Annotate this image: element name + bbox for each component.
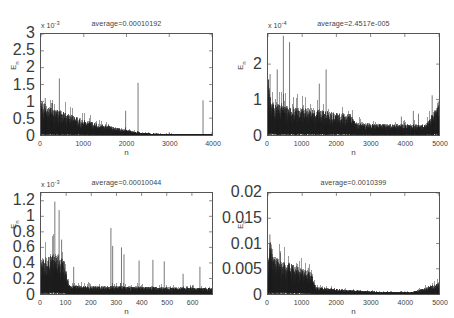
x-tick-label: 4000 — [398, 299, 414, 306]
x-tick-label: 0 — [265, 299, 269, 306]
y-tick-label: 0.02 — [231, 183, 262, 201]
x-tick-label: 300 — [110, 299, 122, 306]
y-tick-label: 0.01 — [231, 235, 262, 253]
x-tick-label: 1000 — [294, 140, 310, 147]
plot-svg-tl — [41, 34, 212, 135]
y-tick-label: 0 — [26, 286, 35, 304]
y-tick-label: 1 — [26, 93, 35, 111]
y-tick-label: 0.4 — [13, 254, 35, 272]
x-tick-label: 4000 — [398, 140, 414, 147]
x-tick-label: 0 — [38, 140, 42, 147]
y-tick-label: 2 — [26, 58, 35, 76]
x-axis-label-bl: n — [40, 307, 213, 316]
plot-area-tl — [40, 33, 213, 136]
y-tick-label: 0.005 — [222, 260, 262, 278]
x-axis-label-tr: n — [267, 148, 440, 157]
subplot-title-br: average=0.0010399 — [267, 178, 440, 187]
subplot-top-right: x 10-4 average=2.4517e-005 En 012 010002… — [227, 0, 454, 159]
y-tick-label: 0 — [26, 127, 35, 145]
matlab-figure-canvas: x 10-3 average=0.00010192 En 00.511.522.… — [0, 0, 454, 318]
plot-svg-br — [268, 193, 439, 294]
x-tick-label: 5000 — [432, 299, 448, 306]
x-tick-label: 600 — [187, 299, 199, 306]
subplot-title-tr: average=2.4517e-005 — [267, 19, 440, 28]
subplot-title-bl: average=0.00010044 — [40, 178, 213, 187]
x-axis-label-tl: n — [40, 148, 213, 157]
y-tick-label: 0.015 — [222, 209, 262, 227]
y-tick-label: 0.5 — [13, 110, 35, 128]
y-ticks-tr: 012 — [237, 33, 264, 136]
y-tick-label: 2 — [253, 55, 262, 73]
subplot-bottom-right: average=0.0010399 En 00.0050.010.0150.02… — [227, 159, 454, 318]
y-tick-label: 1 — [253, 91, 262, 109]
x-tick-label: 2000 — [328, 140, 344, 147]
x-tick-label: 5000 — [432, 140, 448, 147]
x-tick-label: 1000 — [294, 299, 310, 306]
y-ticks-bl: 00.20.40.60.811.2 — [10, 192, 37, 295]
subplot-bottom-left: x 10-3 average=0.00010044 En 00.20.40.60… — [0, 159, 227, 318]
y-tick-label: 1.5 — [13, 76, 35, 94]
x-tick-label: 500 — [161, 299, 173, 306]
x-tick-label: 100 — [60, 299, 72, 306]
x-tick-label: 1000 — [75, 140, 91, 147]
x-tick-label: 3000 — [162, 140, 178, 147]
y-tick-label: 0.6 — [13, 238, 35, 256]
plot-area-bl — [40, 192, 213, 295]
x-tick-label: 0 — [265, 140, 269, 147]
x-tick-label: 3000 — [363, 299, 379, 306]
x-tick-label: 400 — [136, 299, 148, 306]
y-ticks-tl: 00.511.522.53 — [10, 33, 37, 136]
x-axis-label-br: n — [267, 307, 440, 316]
y-tick-label: 0 — [253, 127, 262, 145]
x-tick-label: 4000 — [205, 140, 221, 147]
subplot-title-tl: average=0.00010192 — [40, 19, 213, 28]
y-tick-label: 0.8 — [13, 223, 35, 241]
plot-svg-tr — [268, 34, 439, 135]
x-tick-label: 2000 — [119, 140, 135, 147]
plot-area-tr — [267, 33, 440, 136]
y-ticks-br: 00.0050.010.0150.02 — [237, 192, 264, 295]
x-tick-label: 3000 — [363, 140, 379, 147]
x-tick-label: 200 — [85, 299, 97, 306]
plot-area-br — [267, 192, 440, 295]
y-tick-label: 0.2 — [13, 270, 35, 288]
subplot-top-left: x 10-3 average=0.00010192 En 00.511.522.… — [0, 0, 227, 159]
y-tick-label: 1 — [26, 207, 35, 225]
y-tick-label: 3 — [26, 24, 35, 42]
y-tick-label: 2.5 — [13, 41, 35, 59]
x-tick-label: 2000 — [328, 299, 344, 306]
y-tick-label: 1.2 — [13, 191, 35, 209]
x-tick-label: 0 — [38, 299, 42, 306]
y-tick-label: 0 — [253, 286, 262, 304]
plot-svg-bl — [41, 193, 212, 294]
